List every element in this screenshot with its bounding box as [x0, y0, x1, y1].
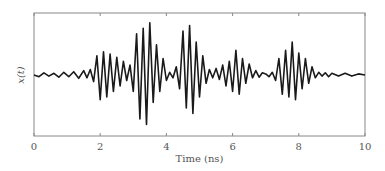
x-tick-label: 2	[97, 141, 103, 152]
x-tick-label: 4	[163, 141, 169, 152]
y-axis-label: x(t)	[15, 66, 26, 84]
plot-frame	[34, 13, 365, 136]
x-tick-label: 6	[229, 141, 235, 152]
waveform-line	[34, 23, 365, 125]
x-tick-label: 0	[31, 141, 37, 152]
chart: 0246810 Time (ns) x(t)	[0, 0, 385, 171]
x-tick-label: 10	[359, 141, 372, 152]
x-tick-label: 8	[296, 141, 302, 152]
x-axis-label: Time (ns)	[176, 153, 224, 164]
